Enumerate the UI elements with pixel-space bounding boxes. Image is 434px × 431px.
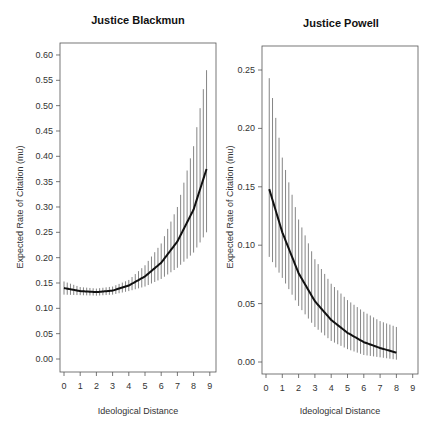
y-tick-label: 0.60 (35, 50, 53, 60)
y-tick-label: 0.05 (237, 299, 255, 309)
panel-blackmun: Justice Blackmun 0.000.050.100.150.200.2… (15, 14, 216, 416)
y-tick-label: 0.25 (237, 65, 255, 75)
x-tick-label: 1 (78, 381, 83, 391)
x-tick-label: 3 (312, 383, 317, 393)
y-tick-label: 0.15 (35, 278, 53, 288)
y-tick-label: 0.10 (35, 303, 53, 313)
confidence-intervals (269, 78, 396, 359)
x-tick-label: 8 (191, 381, 196, 391)
x-tick-label: 9 (207, 381, 212, 391)
y-tick-label: 0.35 (35, 177, 53, 187)
x-tick-label: 6 (159, 381, 164, 391)
x-tick-label: 1 (280, 383, 285, 393)
y-tick-label: 0.55 (35, 75, 53, 85)
x-tick-label: 0 (61, 381, 66, 391)
y-tick-label: 0.45 (35, 126, 53, 136)
x-axis-label: Ideological Distance (300, 406, 381, 416)
x-tick-label: 9 (410, 383, 415, 393)
y-tick-label: 0.30 (35, 202, 53, 212)
y-tick-label: 0.05 (35, 329, 53, 339)
chart-title: Justice Blackmun (91, 14, 185, 26)
plot-frame (60, 43, 216, 372)
y-axis-label: Expected Rate of Citation (mu) (15, 145, 25, 268)
panel-powell: Justice Powell 0.000.050.100.150.200.25 … (225, 17, 418, 416)
x-axis-label: Ideological Distance (98, 406, 179, 416)
y-tick-label: 0.00 (237, 357, 255, 367)
x-axis: 0123456789 (61, 372, 212, 391)
y-tick-label: 0.10 (237, 240, 255, 250)
x-tick-label: 2 (94, 381, 99, 391)
y-tick-label: 0.15 (237, 182, 255, 192)
mean-curve (64, 169, 207, 292)
y-tick-label: 0.20 (35, 253, 53, 263)
y-axis: 0.000.050.100.150.200.250.300.350.400.45… (35, 50, 60, 364)
x-tick-label: 5 (345, 383, 350, 393)
x-tick-label: 7 (378, 383, 383, 393)
y-tick-label: 0.20 (237, 123, 255, 133)
x-tick-label: 2 (296, 383, 301, 393)
figure: Justice Blackmun 0.000.050.100.150.200.2… (0, 0, 434, 431)
x-tick-label: 7 (175, 381, 180, 391)
x-tick-label: 0 (263, 383, 268, 393)
y-tick-label: 0.00 (35, 354, 53, 364)
y-axis-label: Expected Rate of Citation (mu) (225, 145, 235, 268)
x-tick-label: 8 (394, 383, 399, 393)
x-tick-label: 4 (329, 383, 334, 393)
x-axis: 0123456789 (263, 374, 415, 393)
y-axis: 0.000.050.100.150.200.25 (237, 65, 262, 367)
confidence-intervals (64, 70, 207, 295)
y-tick-label: 0.25 (35, 227, 53, 237)
x-tick-label: 3 (110, 381, 115, 391)
x-tick-label: 5 (142, 381, 147, 391)
x-tick-label: 6 (361, 383, 366, 393)
chart-title: Justice Powell (303, 17, 379, 29)
mean-curve (269, 189, 396, 353)
y-tick-label: 0.50 (35, 101, 53, 111)
x-tick-label: 4 (126, 381, 131, 391)
y-tick-label: 0.40 (35, 151, 53, 161)
